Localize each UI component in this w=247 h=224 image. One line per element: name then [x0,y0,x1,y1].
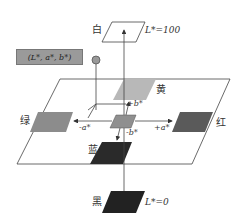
yellow-label: 黄 [156,85,166,95]
white-value-label: L*=100 [145,26,180,35]
black-label: 黑 [92,197,102,207]
blue-label: 蓝 [88,145,98,155]
black-value-label: L*=0 [145,198,169,207]
white-plane [102,22,145,42]
black-plane [102,191,145,213]
plus-a-label: +a* [154,124,169,132]
green-label: 绿 [20,116,30,126]
coordinate-label: (L*, a*, b*) [28,53,72,62]
lab-color-space-diagram [0,0,247,224]
color-point[interactable] [92,56,100,64]
plus-b-label: +b* [127,100,143,108]
minus-a-label: -a* [79,124,90,132]
white-label: 白 [92,25,102,35]
green-patch [30,112,73,132]
coordinate-label-box: (L*, a*, b*) [16,49,83,65]
red-label: 红 [216,118,226,128]
minus-b-label: -b* [126,129,138,137]
